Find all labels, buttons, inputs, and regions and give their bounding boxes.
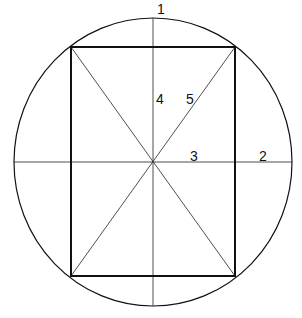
label-2: 2 xyxy=(259,148,267,164)
label-1: 1 xyxy=(157,1,165,17)
diagram-canvas: 1 2 3 4 5 xyxy=(0,0,302,318)
label-4: 4 xyxy=(156,91,164,107)
label-3: 3 xyxy=(190,148,198,164)
label-5: 5 xyxy=(186,91,194,107)
